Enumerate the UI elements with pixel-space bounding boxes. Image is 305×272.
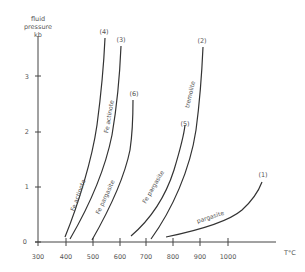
curve-3-id: (3) bbox=[116, 36, 125, 44]
x-tick-600: 600 bbox=[114, 253, 126, 261]
curve-5-id: (5) bbox=[180, 120, 189, 128]
curve-4-label: Fe actinote bbox=[69, 178, 87, 212]
y-tick-0: 0 bbox=[23, 238, 27, 246]
x-tick-700: 700 bbox=[140, 253, 152, 261]
x-tick-1000: 1000 bbox=[220, 253, 237, 261]
curve-5-label: Fe pargasite bbox=[141, 169, 167, 205]
x-tick-400: 400 bbox=[60, 253, 72, 261]
y-tick-1: 1 bbox=[25, 183, 29, 191]
curve-1 bbox=[166, 182, 262, 237]
phase-diagram: fluid pressure kb 0 1 2 3 300 400 500 60… bbox=[0, 0, 305, 272]
x-tick-900: 900 bbox=[194, 253, 206, 261]
curve-1-label: pargasite bbox=[196, 209, 226, 225]
y-tick-2: 2 bbox=[25, 128, 29, 136]
x-tick-300: 300 bbox=[32, 253, 44, 261]
curve-2-id: (2) bbox=[197, 37, 206, 45]
y-axis-title-line2: pressure bbox=[24, 23, 52, 31]
y-axis-title-line1: fluid bbox=[31, 15, 45, 23]
curve-2 bbox=[151, 47, 203, 239]
curve-6 bbox=[92, 100, 133, 240]
x-axis-title: T°C bbox=[283, 249, 296, 257]
x-ticks: 300 400 500 600 700 800 900 1000 bbox=[32, 238, 236, 261]
curve-2-label: tremolite bbox=[183, 80, 196, 108]
x-tick-800: 800 bbox=[167, 253, 179, 261]
curve-1-id: (1) bbox=[258, 171, 267, 179]
curve-4-id: (4) bbox=[99, 28, 108, 36]
x-tick-500: 500 bbox=[87, 253, 99, 261]
curve-6-id: (6) bbox=[129, 90, 138, 98]
y-tick-3: 3 bbox=[25, 73, 29, 81]
